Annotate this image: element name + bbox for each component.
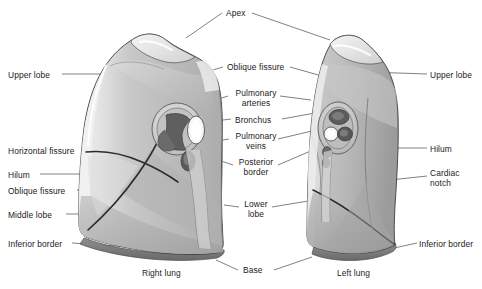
label-middle-lobe: Middle lobe xyxy=(8,210,52,220)
label-inferior-border-right: Inferior border xyxy=(8,239,62,249)
label-pulmonary-arteries: Pulmonary arteries xyxy=(232,88,280,108)
label-bronchus: Bronchus xyxy=(235,115,271,125)
lung-diagram-figure: Apex Upper lobe Horizontal fissure Hilum… xyxy=(0,0,482,289)
left-lung-graphic xyxy=(307,35,398,260)
label-base: Base xyxy=(243,265,263,275)
label-upper-lobe-left: Upper lobe xyxy=(430,70,472,80)
label-horizontal-fissure: Horizontal fissure xyxy=(8,146,75,156)
caption-right-lung: Right lung xyxy=(142,268,181,278)
label-hilum-left: Hilum xyxy=(430,144,452,154)
label-oblique-fissure-right: Oblique fissure xyxy=(8,186,65,196)
right-lung-graphic xyxy=(79,34,224,260)
label-posterior-border: Posterior border xyxy=(236,157,276,177)
caption-left-lung: Left lung xyxy=(337,268,370,278)
label-lower-lobe: Lower lobe xyxy=(242,199,270,219)
label-apex: Apex xyxy=(226,8,246,18)
label-upper-lobe-right: Upper lobe xyxy=(8,70,50,80)
label-pulmonary-veins: Pulmonary veins xyxy=(232,131,280,151)
label-inferior-border-left: Inferior border xyxy=(419,239,473,249)
label-oblique-fissure-center: Oblique fissure xyxy=(227,62,284,72)
label-cardiac-notch: Cardiac notch xyxy=(430,168,460,188)
label-hilum-right: Hilum xyxy=(8,170,30,180)
